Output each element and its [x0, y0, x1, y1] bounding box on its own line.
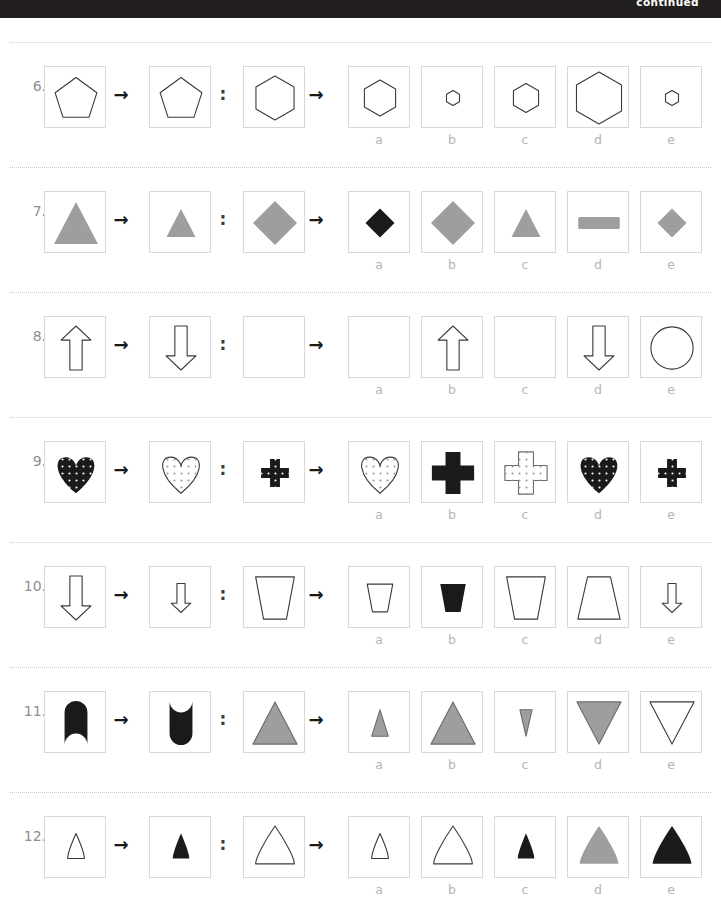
option-label-c: c	[494, 382, 556, 397]
stem-figure-box[interactable]	[243, 191, 305, 253]
stem-figure-box[interactable]	[243, 66, 305, 128]
row-divider	[10, 667, 711, 668]
option-box-c[interactable]	[494, 691, 556, 753]
question-row: 8.→:→abcde	[0, 306, 721, 431]
stem-figure-box[interactable]	[149, 441, 211, 503]
stem-figure-box[interactable]	[243, 316, 305, 378]
option-box-d[interactable]	[567, 816, 629, 878]
stem-figure-box[interactable]	[149, 66, 211, 128]
analogy-colon: :	[218, 209, 228, 229]
figure-arrow-down	[150, 317, 210, 377]
option-box-a[interactable]	[348, 816, 410, 878]
figure-hexagon	[244, 67, 304, 127]
option-box-e[interactable]	[640, 316, 702, 378]
transform-arrow-icon: →	[110, 211, 132, 229]
option-box-b[interactable]	[421, 441, 483, 503]
option-label-a: a	[348, 757, 410, 772]
stem-figure-box[interactable]	[243, 441, 305, 503]
option-box-b[interactable]	[421, 566, 483, 628]
stem-figure-box[interactable]	[44, 191, 106, 253]
figure-trapezoid-up	[568, 567, 628, 627]
transform-arrow-icon: →	[110, 336, 132, 354]
stem-figure-box[interactable]	[149, 191, 211, 253]
question-number: 6.	[12, 78, 46, 94]
stem-figure-box[interactable]	[149, 816, 211, 878]
stem-figure-box[interactable]	[149, 566, 211, 628]
figure-arrow-down	[568, 317, 628, 377]
option-box-c[interactable]	[494, 441, 556, 503]
option-box-a[interactable]	[348, 191, 410, 253]
option-box-a[interactable]	[348, 316, 410, 378]
option-box-d[interactable]	[567, 191, 629, 253]
option-box-d[interactable]	[567, 441, 629, 503]
figure-smiley-inverted	[349, 317, 409, 377]
option-box-a[interactable]	[348, 566, 410, 628]
option-label-d: d	[567, 882, 629, 897]
figure-cross	[244, 442, 304, 502]
row-divider	[10, 42, 711, 43]
question-number: 7.	[12, 203, 46, 219]
figure-arrow-down	[150, 567, 210, 627]
option-box-a[interactable]	[348, 441, 410, 503]
question-number: 12.	[12, 828, 46, 844]
figure-heart	[568, 442, 628, 502]
stem-figure-box[interactable]	[44, 66, 106, 128]
option-label-b: b	[421, 382, 483, 397]
option-box-d[interactable]	[567, 66, 629, 128]
option-box-b[interactable]	[421, 66, 483, 128]
option-box-b[interactable]	[421, 191, 483, 253]
option-box-e[interactable]	[640, 441, 702, 503]
transform-arrow-icon: →	[305, 461, 327, 479]
stem-figure-box[interactable]	[243, 816, 305, 878]
continued-label: continued	[636, 0, 699, 8]
option-box-b[interactable]	[421, 316, 483, 378]
stem-figure-box[interactable]	[44, 566, 106, 628]
option-box-e[interactable]	[640, 66, 702, 128]
stem-figure-box[interactable]	[243, 566, 305, 628]
option-box-c[interactable]	[494, 316, 556, 378]
stem-figure-box[interactable]	[243, 691, 305, 753]
option-label-c: c	[494, 132, 556, 147]
transform-arrow-icon: →	[110, 586, 132, 604]
option-box-e[interactable]	[640, 191, 702, 253]
option-label-b: b	[421, 257, 483, 272]
option-label-a: a	[348, 507, 410, 522]
option-box-a[interactable]	[348, 691, 410, 753]
question-row: 11.→:→abcde	[0, 681, 721, 806]
stem-figure-box[interactable]	[44, 316, 106, 378]
option-box-c[interactable]	[494, 191, 556, 253]
option-label-b: b	[421, 132, 483, 147]
option-box-e[interactable]	[640, 691, 702, 753]
option-box-b[interactable]	[421, 816, 483, 878]
stem-figure-box[interactable]	[44, 816, 106, 878]
option-box-b[interactable]	[421, 691, 483, 753]
figure-trapezoid-down	[349, 567, 409, 627]
option-box-d[interactable]	[567, 566, 629, 628]
option-box-c[interactable]	[494, 566, 556, 628]
figure-heart	[349, 442, 409, 502]
stem-figure-box[interactable]	[44, 691, 106, 753]
option-box-a[interactable]	[348, 66, 410, 128]
option-box-e[interactable]	[640, 816, 702, 878]
option-label-a: a	[348, 257, 410, 272]
stem-figure-box[interactable]	[44, 441, 106, 503]
transform-arrow-icon: →	[110, 86, 132, 104]
analogy-colon: :	[218, 459, 228, 479]
stem-figure-box[interactable]	[149, 691, 211, 753]
option-label-d: d	[567, 632, 629, 647]
option-box-c[interactable]	[494, 66, 556, 128]
figure-triangle	[150, 192, 210, 252]
transform-arrow-icon: →	[305, 586, 327, 604]
row-divider	[10, 792, 711, 793]
option-box-d[interactable]	[567, 316, 629, 378]
figure-hexagon	[641, 67, 701, 127]
question-number: 10.	[12, 578, 46, 594]
option-box-c[interactable]	[494, 816, 556, 878]
analogy-colon: :	[218, 834, 228, 854]
option-box-e[interactable]	[640, 566, 702, 628]
stem-figure-box[interactable]	[149, 316, 211, 378]
figure-cross	[495, 442, 555, 502]
option-box-d[interactable]	[567, 691, 629, 753]
figure-kite	[45, 817, 105, 877]
figure-hexagon	[495, 67, 555, 127]
